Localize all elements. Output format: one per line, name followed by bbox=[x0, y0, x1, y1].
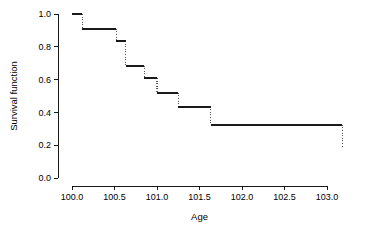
y-axis-tick-label: 0.0 bbox=[38, 173, 51, 183]
y-axis-tick-label: 0.8 bbox=[38, 42, 51, 52]
survival-function-chart: 0.00.20.40.60.81.0100.0100.5101.0101.510… bbox=[0, 0, 367, 235]
y-axis-tick-label: 0.4 bbox=[38, 108, 51, 118]
chart-canvas: 0.00.20.40.60.81.0100.0100.5101.0101.510… bbox=[0, 0, 367, 235]
y-axis-tick-label: 0.6 bbox=[38, 75, 51, 85]
y-axis-tick-label: 0.2 bbox=[38, 140, 51, 150]
y-axis-title: Survival function bbox=[8, 61, 19, 131]
x-axis-tick-label: 102.0 bbox=[231, 192, 254, 202]
x-axis-tick-label: 100.5 bbox=[103, 192, 126, 202]
y-axis-tick-label: 1.0 bbox=[38, 9, 51, 19]
x-axis-tick-label: 101.5 bbox=[188, 192, 211, 202]
x-axis-tick-label: 102.5 bbox=[273, 192, 296, 202]
x-axis-tick-label: 101.0 bbox=[146, 192, 169, 202]
x-axis-tick-label: 103.0 bbox=[316, 192, 339, 202]
x-axis-title: Age bbox=[191, 211, 208, 222]
x-axis-tick-label: 100.0 bbox=[61, 192, 84, 202]
